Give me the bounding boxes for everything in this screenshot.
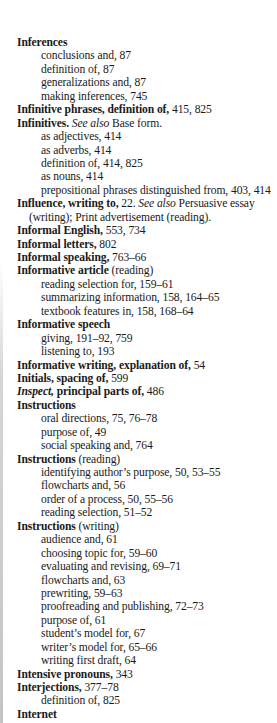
index-subentry: definition of, 87 [17, 63, 277, 76]
entry-term: Informative article [17, 264, 109, 277]
see-also-label: See also [69, 117, 109, 130]
index-subentry: as adjectives, 414 [17, 130, 277, 143]
subentry-text: definition of, 825 [41, 694, 120, 707]
index-entry: Inferences [17, 36, 277, 49]
subentry-text: evaluating and revising, 69–71 [41, 560, 181, 573]
entry-pages: 599 [108, 372, 128, 385]
entry-term: Instructions [17, 520, 76, 533]
subentry-text: flowcharts and, 56 [41, 479, 125, 492]
entry-term: Initials, spacing of, [17, 372, 108, 385]
index-entry: Informal letters, 802 [17, 238, 277, 251]
index-subentry: order of a process, 50, 55–56 [17, 493, 277, 506]
index-subentry: prepositional phrases distinguished from… [17, 184, 277, 197]
entry-term: Informal English, [17, 224, 103, 237]
index-entry: Informative article (reading) [17, 264, 277, 277]
index-subentry: evaluating and revising, 69–71 [17, 560, 277, 573]
subentry-text: as adverbs, 414 [41, 144, 111, 157]
index-subentry: as nouns, 414 [17, 170, 277, 183]
subentry-text: writer’s model for, 65–66 [41, 641, 157, 654]
entry-term: Infinitives. [17, 117, 69, 130]
subentry-text: identifying author’s purpose, 50, 53–55 [41, 466, 220, 479]
index-subentry: writing first draft, 64 [17, 654, 277, 667]
index-entry: Initials, spacing of, 599 [17, 372, 277, 385]
entry-term: Instructions [17, 453, 76, 466]
index-entry: Informal speaking, 763–66 [17, 251, 277, 264]
subentry-text: purpose of, 61 [41, 614, 106, 627]
entry-pages: 22. [119, 197, 136, 210]
entry-term: Intensive pronouns, [17, 668, 113, 681]
index-subentry: making inferences, 745 [17, 90, 277, 103]
entry-term: principal parts of, [54, 385, 144, 398]
index-subentry: definition of, 414, 825 [17, 157, 277, 170]
entry-term-italic: Inspect, [17, 385, 54, 398]
entry-term: Interjections, [17, 681, 82, 694]
entry-term: Informal letters, [17, 238, 96, 251]
index-subentry: writer’s model for, 65–66 [17, 641, 277, 654]
entry-term: Instructions [17, 399, 76, 412]
subentry-text: student’s model for, 67 [41, 627, 145, 640]
subentry-text: reading selection, 51–52 [41, 506, 152, 519]
entry-pages: 486 [144, 385, 164, 398]
index-entry: Instructions (writing) [17, 520, 277, 533]
subentry-text: conclusions and, 87 [41, 49, 131, 62]
entry-pages: 763–66 [109, 251, 146, 264]
subentry-text: order of a process, 50, 55–56 [41, 493, 173, 506]
entry-term: Inferences [17, 36, 67, 49]
index-column: Inferencesconclusions and, 87definition … [17, 36, 277, 721]
index-subentry: reading selection for, 159–61 [17, 278, 277, 291]
index-entry: Internet [17, 708, 277, 721]
index-entry-continuation: (writing); Print advertisement (reading)… [17, 211, 277, 224]
subentry-text: writing first draft, 64 [41, 654, 136, 667]
entry-term: Informal speaking, [17, 251, 109, 264]
subentry-text: listening to, 193 [41, 345, 114, 358]
entry-term: Informative writing, explanation of, [17, 359, 191, 372]
index-subentry: generalizations and, 87 [17, 76, 277, 89]
index-entry: Instructions (reading) [17, 453, 277, 466]
index-subentry: purpose of, 49 [17, 426, 277, 439]
entry-pages: (writing) [76, 520, 119, 533]
index-subentry: textbook features in, 158, 168–64 [17, 305, 277, 318]
entry-pages: (reading) [76, 453, 120, 466]
index-entry: Influence, writing to, 22. See also Pers… [17, 197, 277, 210]
entry-pages: 343 [113, 668, 133, 681]
index-subentry: social speaking and, 764 [17, 439, 277, 452]
entry-pages: 553, 734 [103, 224, 146, 237]
index-subentry: flowcharts and, 63 [17, 574, 277, 587]
subentry-text: giving, 191–92, 759 [41, 332, 133, 345]
index-entry: Informal English, 553, 734 [17, 224, 277, 237]
subentry-text: choosing topic for, 59–60 [41, 547, 157, 560]
index-subentry: giving, 191–92, 759 [17, 332, 277, 345]
entry-pages: (reading) [109, 264, 153, 277]
entry-pages: 54 [191, 359, 205, 372]
index-entry: Infinitive phrases, definition of, 415, … [17, 103, 277, 116]
index-entry: Inspect, principal parts of, 486 [17, 385, 277, 398]
index-subentry: conclusions and, 87 [17, 49, 277, 62]
subentry-text: definition of, 414, 825 [41, 157, 143, 170]
continuation-text: (writing); Print advertisement (reading)… [29, 211, 211, 224]
index-subentry: identifying author’s purpose, 50, 53–55 [17, 466, 277, 479]
index-subentry: flowcharts and, 56 [17, 479, 277, 492]
subentry-text: proofreading and publishing, 72–73 [41, 600, 204, 613]
index-entry: Informative speech [17, 318, 277, 331]
page-gutter-line [0, 260, 3, 723]
subentry-text: oral directions, 75, 76–78 [41, 412, 157, 425]
subentry-text: as nouns, 414 [41, 170, 103, 183]
subentry-text: definition of, 87 [41, 63, 114, 76]
index-entry: Interjections, 377–78 [17, 681, 277, 694]
index-subentry: as adverbs, 414 [17, 144, 277, 157]
subentry-text: generalizations and, 87 [41, 76, 146, 89]
index-subentry: student’s model for, 67 [17, 627, 277, 640]
index-subentry: summarizing information, 158, 164–65 [17, 291, 277, 304]
entry-term: Internet [17, 708, 57, 721]
entry-pages: 377–78 [82, 681, 119, 694]
entry-pages: 802 [96, 238, 116, 251]
entry-term: Influence, writing to, [17, 197, 119, 210]
index-entry: Informative writing, explanation of, 54 [17, 359, 277, 372]
index-subentry: reading selection, 51–52 [17, 506, 277, 519]
entry-term: Infinitive phrases, definition of, [17, 103, 169, 116]
index-subentry: choosing topic for, 59–60 [17, 547, 277, 560]
subentry-text: social speaking and, 764 [41, 439, 153, 452]
index-subentry: listening to, 193 [17, 345, 277, 358]
see-also-label: See also [136, 197, 176, 210]
subentry-text: textbook features in, 158, 168–64 [41, 305, 194, 318]
